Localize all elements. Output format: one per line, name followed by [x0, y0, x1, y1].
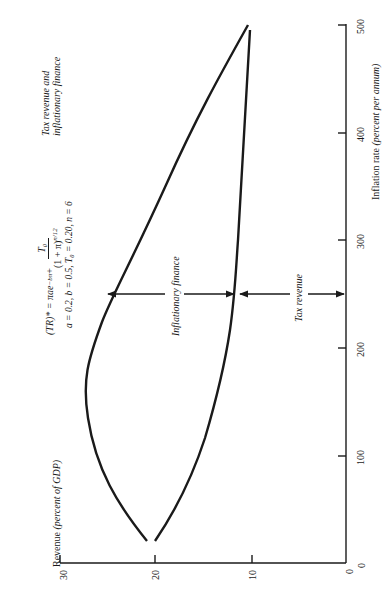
formula-row: (TR)* = πae−bπ + T₀ (1 + π)n/12	[36, 228, 64, 335]
x-tick-label-100: 100	[355, 450, 366, 465]
revenue-label-plain: Revenue	[51, 530, 62, 568]
revenue-axis-label: Revenue (percent of GDP)	[51, 460, 62, 567]
total-revenue-curve	[86, 25, 248, 541]
inflation-label-plain: Inflation rate	[370, 146, 381, 200]
formula-lhs: (TR)* = πae	[44, 285, 56, 335]
x-tick-label-400: 400	[355, 127, 366, 142]
formula-denominator: (1 + π)n/12	[49, 228, 64, 268]
formula-fraction: T₀ (1 + π)n/12	[36, 228, 64, 268]
x-tick-label-200: 200	[355, 342, 366, 357]
total-label-line2: inflationary finance	[51, 57, 62, 136]
inflation-label-italic: (percent per annum)	[370, 64, 381, 146]
y-tick-label-10: 10	[247, 570, 258, 580]
formula-plus: +	[44, 268, 56, 274]
inflation-axis-label: Inflation rate (percent per annum)	[370, 64, 381, 200]
y-tick-label-20: 20	[150, 570, 161, 580]
revenue-label-italic: (percent of GDP)	[51, 460, 62, 530]
tax-revenue-label: Tax revenue	[293, 274, 304, 322]
formula: (TR)* = πae−bπ + T₀ (1 + π)n/12	[36, 228, 64, 335]
formula-numerator: T₀	[36, 238, 49, 259]
total-label-line1: Tax revenue and	[40, 57, 51, 136]
x-tick-label-500: 500	[355, 19, 366, 34]
total-curve-label: Tax revenue and inflationary finance	[40, 57, 62, 136]
formula-den-exp: n/12	[51, 228, 59, 240]
x-tick-label-300: 300	[355, 234, 366, 249]
y-tick-label-0: 0	[344, 569, 355, 574]
formula-exponent: −bπ	[44, 274, 56, 286]
formula-den-base: (1 + π)	[52, 241, 63, 268]
x-tick-label-0: 0	[356, 563, 367, 568]
formula-params: a = 0.2, b = 0.5, T₀ = 0.20, n = 6	[64, 201, 74, 328]
y-tick-label-30: 30	[58, 570, 69, 580]
inflationary-finance-label: Inflationary finance	[170, 256, 181, 336]
